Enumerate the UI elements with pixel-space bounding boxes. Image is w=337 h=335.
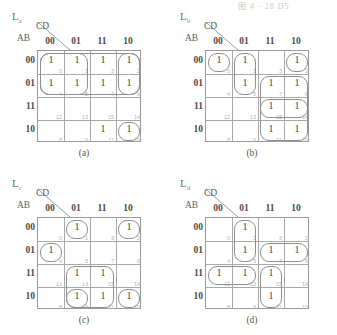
kmap-cell-6[interactable]: 16 [284,241,310,264]
kmap-cell-7[interactable]: 17 [258,241,284,264]
ab-axis-label: AB [17,33,30,43]
row-header-1: 01 [182,245,203,255]
kmap-cell-2[interactable]: 12 [116,218,142,241]
col-header-2: 11 [89,36,115,46]
kmap-cell-7[interactable]: 7 [90,241,116,264]
kmap-cell-8[interactable]: 8 [38,120,64,143]
kmap-cell-2[interactable]: 12 [284,51,310,74]
kmap-cell-10[interactable]: 110 [284,120,310,143]
kmap-cell-13[interactable]: 113 [64,264,90,287]
output-name: L [12,177,19,189]
kmap-cell-9[interactable]: 19 [64,287,90,310]
kmap-cell-4[interactable]: 14 [38,74,64,97]
kmap-cell-3[interactable]: 13 [90,51,116,74]
kmap-cell-8[interactable]: 8 [38,287,64,310]
kmap-cell-6[interactable]: 16 [284,74,310,97]
kmap-cell-13[interactable]: 13 [232,97,258,120]
col-header-3: 10 [115,36,141,46]
kmap-cell-3[interactable]: 3 [90,218,116,241]
cell-value: 1 [206,54,232,65]
kmap-cell-3[interactable]: 3 [258,51,284,74]
kmap-cell-4[interactable]: 4 [206,74,232,97]
cell-value: 1 [284,123,310,134]
kmap-cell-12[interactable]: 12 [38,97,64,120]
col-header-0: 00 [205,203,231,213]
col-header-2: 11 [89,203,115,213]
row-header-3: 10 [182,124,203,134]
kmap-cell-11[interactable]: 111 [258,287,284,310]
kmap-cell-8[interactable]: 8 [206,287,232,310]
output-label-d: Ld [180,177,190,192]
kmap-cell-12[interactable]: 12 [38,264,64,287]
kmap-cell-15[interactable]: 15 [90,97,116,120]
cell-index: 11 [108,137,114,143]
kmap-cell-10[interactable]: 110 [116,287,142,310]
kmap-cell-2[interactable]: 12 [116,51,142,74]
ab-axis-label: AB [185,33,198,43]
kmap-cell-9[interactable]: 9 [64,120,90,143]
panel-caption-a: (a) [0,148,168,158]
kmap-cell-11[interactable]: 111 [258,120,284,143]
output-subscript: b [187,17,191,25]
kmap-cell-10[interactable]: 110 [116,120,142,143]
cell-index: 9 [85,137,88,143]
kmap-cell-11[interactable]: 111 [90,120,116,143]
kmap-cell-14[interactable]: 14 [116,97,142,120]
kmap-cell-5[interactable]: 15 [64,74,90,97]
kmap-cell-13[interactable]: 13 [64,97,90,120]
kmap-cell-0[interactable]: 0 [38,218,64,241]
cell-index: 10 [134,137,140,143]
kmap-cell-1[interactable]: 11 [64,218,90,241]
kmap-cell-4[interactable]: 14 [38,241,64,264]
kmap-cell-0[interactable]: 10 [206,51,232,74]
kmap-cell-5[interactable]: 15 [232,241,258,264]
kmap-cell-3[interactable]: 3 [258,218,284,241]
cell-value: 1 [90,77,116,88]
col-header-1: 01 [63,36,89,46]
kmap-cell-15[interactable]: 115 [258,264,284,287]
col-header-3: 10 [283,203,309,213]
kmap-cell-5[interactable]: 15 [232,74,258,97]
cell-value: 1 [64,290,90,301]
row-header-2: 11 [182,101,203,111]
row-header-3: 10 [14,124,35,134]
col-header-0: 00 [37,36,63,46]
cd-axis-label: CD [36,188,49,198]
cell-value: 1 [258,290,284,301]
kmap-cell-1[interactable]: 11 [232,51,258,74]
output-subscript: c [19,184,22,192]
output-name: L [180,177,187,189]
kmap-cell-1[interactable]: 11 [232,218,258,241]
cell-value: 1 [116,290,142,301]
kmap-cell-15[interactable]: 115 [90,264,116,287]
kmap-cell-0[interactable]: 0 [206,218,232,241]
kmap-cell-14[interactable]: 14 [116,264,142,287]
kmap-grid: 011312145761211311514819111110 [37,217,141,309]
kmap-cell-5[interactable]: 5 [64,241,90,264]
cell-value: 1 [38,77,64,88]
kmap-cell-8[interactable]: 8 [206,120,232,143]
kmap-cell-14[interactable]: 114 [284,97,310,120]
kmap-cell-9[interactable]: 9 [232,120,258,143]
kmap-cell-11[interactable]: 111 [90,287,116,310]
kmap-cell-0[interactable]: 10 [38,51,64,74]
kmap-cell-7[interactable]: 17 [258,74,284,97]
kmap-cell-12[interactable]: 112 [206,264,232,287]
kmap-cell-4[interactable]: 4 [206,241,232,264]
row-header-2: 11 [182,268,203,278]
kmap-cell-2[interactable]: 2 [284,218,310,241]
kmap-cell-7[interactable]: 17 [90,74,116,97]
row-header-3: 10 [14,291,35,301]
kmap-cell-6[interactable]: 6 [116,241,142,264]
row-header-0: 00 [14,55,35,65]
kmap-cell-15[interactable]: 115 [258,97,284,120]
cell-index: 9 [85,304,88,310]
kmap-cell-6[interactable]: 16 [116,74,142,97]
kmap-cell-12[interactable]: 12 [206,97,232,120]
kmap-cell-13[interactable]: 113 [232,264,258,287]
kmap-cell-9[interactable]: 9 [232,287,258,310]
kmap-cell-1[interactable]: 11 [64,51,90,74]
output-subscript: a [19,17,22,25]
kmap-cell-14[interactable]: 14 [284,264,310,287]
kmap-cell-10[interactable]: 10 [284,287,310,310]
